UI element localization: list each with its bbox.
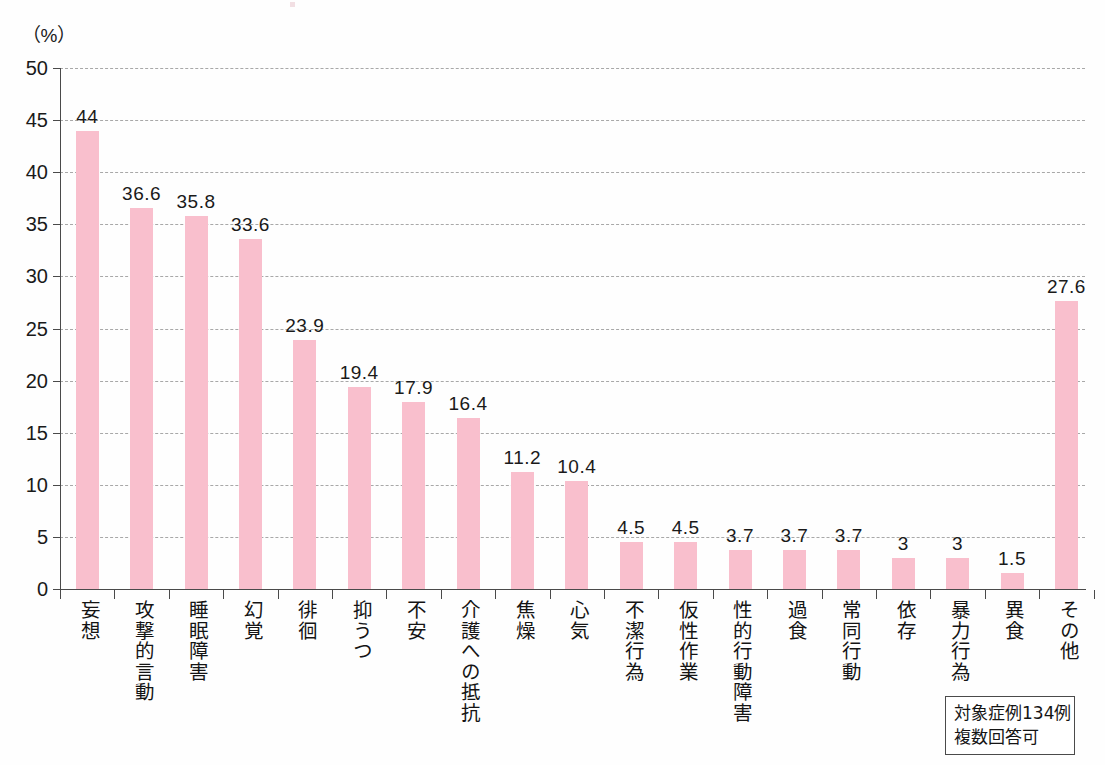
bar-value-label: 4.5 (656, 518, 716, 537)
y-tick-label-20: 20 (26, 371, 48, 391)
gridline-40 (60, 172, 1085, 173)
bar-value-label: 17.9 (384, 378, 444, 397)
y-tick-30 (53, 276, 61, 277)
category-label: 心気 (567, 600, 588, 641)
bar-value-label: 19.4 (329, 363, 389, 382)
gridline-30 (60, 276, 1085, 277)
x-tick-5 (332, 590, 333, 599)
bar-value-label: 33.6 (220, 215, 280, 234)
category-label: 常同行動 (839, 600, 860, 682)
bar-value-label: 11.2 (492, 448, 552, 467)
y-tick-label-35: 35 (26, 214, 48, 234)
bar-value-label: 27.6 (1036, 277, 1096, 296)
bar-value-label: 3.7 (819, 526, 879, 545)
gridline-25 (60, 329, 1085, 330)
note-line-2: 複数回答可 (954, 725, 1068, 749)
bar-value-label: 3 (873, 534, 933, 553)
bar-value-label: 36.6 (112, 184, 172, 203)
bar-value-label: 35.8 (166, 192, 226, 211)
bar (837, 550, 860, 589)
y-tick-label-40: 40 (26, 162, 48, 182)
bar (620, 542, 643, 589)
category-label: 不潔行為 (621, 600, 642, 682)
category-label: 攻撃的言動 (132, 600, 153, 703)
plot-area: 4436.635.833.623.919.417.916.411.210.44.… (60, 68, 1085, 589)
bar (783, 550, 806, 589)
y-tick-label-15: 15 (26, 423, 48, 443)
bar (76, 131, 99, 589)
bar (402, 402, 425, 589)
category-label: 暴力行為 (948, 600, 969, 682)
bar-value-label: 16.4 (438, 394, 498, 413)
bar (511, 472, 534, 589)
x-tick-7 (441, 590, 442, 599)
category-label: 仮性作業 (676, 600, 697, 682)
x-tick-17 (985, 590, 986, 599)
y-tick-25 (53, 329, 61, 330)
category-label: 幻覚 (240, 600, 261, 641)
x-tick-15 (876, 590, 877, 599)
scan-artifact-speck (290, 2, 295, 7)
x-axis (60, 589, 1086, 590)
y-axis-unit-label: （%） (22, 20, 75, 47)
y-tick-label-30: 30 (26, 266, 48, 286)
gridline-35 (60, 224, 1085, 225)
x-tick-13 (767, 590, 768, 599)
x-tick-19 (1094, 590, 1095, 599)
x-tick-4 (278, 590, 279, 599)
bar (892, 558, 915, 589)
y-tick-50 (53, 68, 61, 69)
y-tick-label-5: 5 (37, 527, 48, 547)
x-tick-1 (114, 590, 115, 599)
chart-page: （%） 4436.635.833.623.919.417.916.411.210… (0, 0, 1105, 765)
y-tick-label-50: 50 (26, 58, 48, 78)
x-tick-12 (713, 590, 714, 599)
category-label: 妄想 (77, 600, 98, 641)
gridline-15 (60, 433, 1085, 434)
bar (130, 208, 153, 589)
category-label: 不安 (404, 600, 425, 641)
x-tick-3 (223, 590, 224, 599)
x-tick-14 (822, 590, 823, 599)
y-tick-20 (53, 381, 61, 382)
bar (1055, 301, 1078, 589)
category-label: 過食 (784, 600, 805, 641)
bar-value-label: 3 (928, 534, 988, 553)
x-tick-18 (1039, 590, 1040, 599)
x-tick-2 (169, 590, 170, 599)
bar (348, 387, 371, 589)
bar-value-label: 44 (57, 107, 117, 126)
gridline-45 (60, 120, 1085, 121)
bar (1001, 573, 1024, 589)
bar (239, 239, 262, 589)
y-tick-label-25: 25 (26, 319, 48, 339)
category-label: 異食 (1002, 600, 1023, 641)
category-label: 介護への抵抗 (458, 600, 479, 723)
y-tick-35 (53, 224, 61, 225)
bar (674, 542, 697, 589)
gridline-20 (60, 381, 1085, 382)
y-tick-label-0: 0 (37, 579, 48, 599)
x-tick-6 (386, 590, 387, 599)
bar (293, 340, 316, 589)
x-tick-0 (60, 590, 61, 599)
category-label: 性的行動障害 (730, 600, 751, 723)
y-tick-10 (53, 485, 61, 486)
bar-value-label: 3.7 (710, 526, 770, 545)
bar (946, 558, 969, 589)
note-line-1: 対象症例134例 (954, 701, 1068, 725)
bar (729, 550, 752, 589)
bar-value-label: 23.9 (275, 316, 335, 335)
category-label: 徘徊 (295, 600, 316, 641)
bar (565, 481, 588, 589)
y-tick-5 (53, 537, 61, 538)
x-tick-9 (550, 590, 551, 599)
y-tick-label-10: 10 (26, 475, 48, 495)
bar-value-label: 4.5 (601, 518, 661, 537)
gridline-50 (60, 68, 1085, 69)
x-tick-10 (604, 590, 605, 599)
x-tick-16 (930, 590, 931, 599)
category-label: その他 (1056, 600, 1077, 662)
y-axis: 05101520253035404550 (60, 68, 61, 590)
category-label: 抑うつ (349, 600, 370, 662)
